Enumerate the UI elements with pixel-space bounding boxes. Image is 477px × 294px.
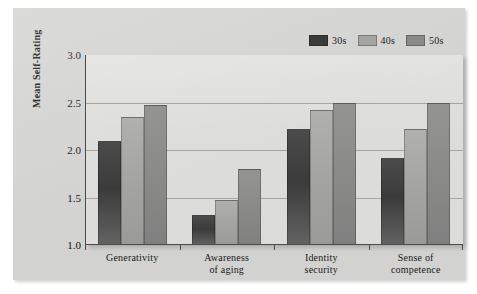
x-category-label: Sense ofcompetence [356, 252, 476, 276]
legend-label-50s: 50s [429, 35, 444, 46]
x-category-label-line: competence [356, 264, 476, 276]
legend-entry-50s: 50s [406, 35, 444, 46]
bar-30s-sense-of-competence [381, 158, 404, 245]
bar-30s-awareness-of-aging [192, 215, 215, 245]
bar-40s-sense-of-competence [404, 129, 427, 245]
bar-40s-generativity [121, 117, 144, 245]
figure-root: 30s 40s 50s Mean Self-Rating 1.01.52.02.… [0, 0, 477, 294]
y-tick-label: 3.0 [41, 49, 81, 61]
bar-50s-generativity [144, 105, 167, 245]
bar-30s-identity-security [287, 129, 310, 245]
gridline [85, 103, 463, 104]
bar-30s-generativity [98, 141, 121, 246]
y-tick-label: 2.5 [41, 97, 81, 109]
y-tick-label: 2.0 [41, 144, 81, 156]
legend-label-40s: 40s [381, 35, 396, 46]
x-tick [369, 245, 370, 250]
bar-50s-identity-security [333, 103, 356, 246]
chart-panel: 30s 40s 50s Mean Self-Rating 1.01.52.02.… [13, 8, 465, 280]
legend-entry-30s: 30s [309, 35, 347, 46]
legend: 30s 40s 50s [309, 32, 444, 48]
legend-swatch-30s [309, 35, 328, 46]
legend-label-30s: 30s [332, 35, 347, 46]
x-tick [85, 245, 86, 250]
y-tick-label: 1.5 [41, 192, 81, 204]
bar-40s-identity-security [310, 110, 333, 245]
x-tick [274, 245, 275, 250]
bar-40s-awareness-of-aging [215, 200, 238, 245]
bar-50s-sense-of-competence [427, 103, 450, 246]
bar-50s-awareness-of-aging [238, 169, 261, 245]
legend-entry-40s: 40s [358, 35, 396, 46]
x-tick [180, 245, 181, 250]
legend-swatch-40s [358, 35, 377, 46]
plot-wrapper: 1.01.52.02.53.0 [85, 55, 463, 245]
legend-swatch-50s [406, 35, 425, 46]
y-axis-line [85, 55, 86, 245]
y-tick-label: 1.0 [41, 239, 81, 251]
x-category-label-line: Sense of [356, 252, 476, 264]
x-tick [462, 245, 463, 250]
